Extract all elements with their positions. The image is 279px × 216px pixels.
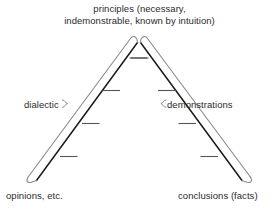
right-leg-inner-rail (141, 43, 243, 181)
left-branch-label-dialectic: dialectic (24, 99, 59, 111)
right-leg-top-cap (141, 37, 148, 43)
right-base-label-conclusions: conclusions (facts) (178, 190, 258, 202)
left-leg-bottom-cap (27, 177, 37, 183)
left-base-label-opinions: opinions, etc. (6, 190, 63, 202)
apex-label-line-1: principles (necessary, (0, 3, 279, 15)
right-brace-icon (161, 100, 166, 107)
right-leg-bottom-cap (242, 177, 252, 183)
left-brace-icon (63, 100, 68, 107)
apex-label-principles: principles (necessary, indemonstrable, k… (0, 3, 279, 27)
apex-label-line-2: indemonstrable, known by intuition) (0, 15, 279, 27)
left-leg-inner-rail (37, 43, 138, 181)
left-leg-top-cap (131, 37, 138, 43)
right-branch-label-demonstrations: demonstrations (167, 99, 233, 111)
diagram-canvas: principles (necessary, indemonstrable, k… (0, 0, 279, 216)
